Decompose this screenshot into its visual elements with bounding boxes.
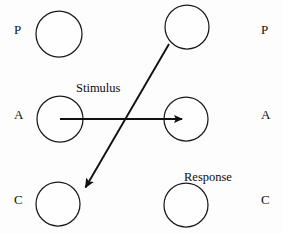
node-left-child[interactable] [36, 182, 80, 226]
response-label: Response [184, 171, 232, 184]
row-label-left-parent: P [14, 23, 21, 36]
diagram-svg [0, 0, 283, 234]
row-label-right-parent: P [261, 23, 268, 36]
row-label-left-adult: A [14, 108, 24, 121]
row-label-right-child: C [261, 193, 270, 206]
node-right-parent[interactable] [165, 5, 209, 49]
stimulus-label: Stimulus [76, 82, 120, 95]
node-right-child[interactable] [164, 183, 208, 227]
node-left-parent[interactable] [36, 11, 82, 57]
row-label-left-child: C [14, 193, 23, 206]
row-label-right-adult: A [261, 108, 271, 121]
diagram-canvas: P A C P A C Stimulus Response [0, 0, 283, 234]
response-arrow[interactable] [86, 44, 170, 188]
